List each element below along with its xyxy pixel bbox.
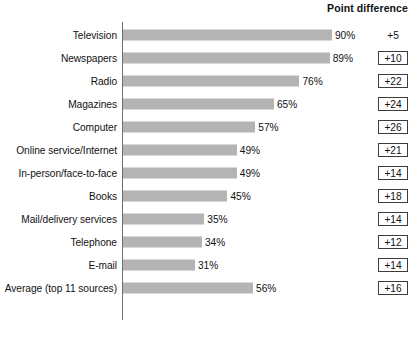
- bar-fill: [123, 98, 274, 109]
- bar: [123, 259, 195, 270]
- bar-value-label: 35%: [207, 213, 227, 224]
- bar: [123, 236, 202, 247]
- point-difference-value: +12: [378, 235, 408, 249]
- bar-row: Online service/Internet49%+21: [0, 138, 417, 161]
- point-difference-value: +22: [378, 74, 408, 88]
- bar-value-label: 49%: [240, 167, 260, 178]
- category-label: Mail/delivery services: [21, 213, 117, 224]
- plot-area: Television90%+5Newspapers89%+10Radio76%+…: [0, 20, 417, 337]
- bar-fill: [123, 75, 299, 86]
- bar: [123, 144, 237, 155]
- bar-value-label: 76%: [302, 75, 322, 86]
- category-label: Newspapers: [61, 52, 117, 63]
- bar: [123, 213, 204, 224]
- bar-value-label: 31%: [198, 259, 218, 270]
- bar-row: Computer57%+26: [0, 115, 417, 138]
- category-label: Television: [73, 29, 117, 40]
- point-difference-value: +14: [378, 212, 408, 226]
- point-difference-value: +10: [378, 51, 408, 65]
- bar-row: Magazines65%+24: [0, 92, 417, 115]
- bar-fill: [123, 282, 253, 293]
- bar-value-label: 65%: [277, 98, 297, 109]
- bar: [123, 52, 330, 63]
- bar: [123, 121, 255, 132]
- bar-fill: [123, 144, 237, 155]
- bar-value-label: 57%: [258, 121, 278, 132]
- point-difference-value: +24: [378, 97, 408, 111]
- category-label: Average (top 11 sources): [5, 282, 117, 293]
- bar-fill: [123, 167, 237, 178]
- bar-row: Average (top 11 sources)56%+16: [0, 276, 417, 299]
- bar-row: Radio76%+22: [0, 69, 417, 92]
- bar-fill: [123, 52, 330, 63]
- point-difference-value: +16: [378, 281, 408, 295]
- category-label: Telephone: [70, 236, 117, 247]
- category-label: Magazines: [68, 98, 117, 109]
- point-difference-value: +21: [378, 143, 408, 157]
- point-difference-value: +14: [378, 166, 408, 180]
- bar-row: Television90%+5: [0, 23, 417, 46]
- bar-row: Newspapers89%+10: [0, 46, 417, 69]
- point-difference-value: +18: [378, 189, 408, 203]
- bar-fill: [123, 236, 202, 247]
- bar-fill: [123, 29, 332, 40]
- bar: [123, 190, 227, 201]
- bar: [123, 167, 237, 178]
- point-difference-value: +26: [378, 120, 408, 134]
- bar-fill: [123, 213, 204, 224]
- bar: [123, 98, 274, 109]
- category-label: Online service/Internet: [16, 144, 117, 155]
- bar-row: Books45%+18: [0, 184, 417, 207]
- bar-fill: [123, 121, 255, 132]
- bar-value-label: 56%: [256, 282, 276, 293]
- point-difference-column-header: Point difference: [327, 2, 408, 14]
- bar-chart-figure: Point difference Television90%+5Newspape…: [0, 0, 417, 337]
- bar-value-label: 49%: [240, 144, 260, 155]
- bar-row: In-person/face-to-face49%+14: [0, 161, 417, 184]
- category-label: Books: [89, 190, 117, 201]
- bar-value-label: 89%: [333, 52, 353, 63]
- bar-fill: [123, 190, 227, 201]
- category-label: Computer: [73, 121, 117, 132]
- bar-fill: [123, 259, 195, 270]
- bar-row: Mail/delivery services35%+14: [0, 207, 417, 230]
- category-label: E-mail: [88, 259, 117, 270]
- bar: [123, 75, 299, 86]
- bar-row: E-mail31%+14: [0, 253, 417, 276]
- category-label: In-person/face-to-face: [18, 167, 117, 178]
- bar-row: Telephone34%+12: [0, 230, 417, 253]
- bar: [123, 29, 332, 40]
- bar-value-label: 34%: [205, 236, 225, 247]
- bar-value-label: 45%: [230, 190, 250, 201]
- bar-value-label: 90%: [335, 29, 355, 40]
- point-difference-value: +14: [378, 258, 408, 272]
- point-difference-value: +5: [378, 28, 408, 42]
- chart-header: Point difference: [0, 0, 417, 20]
- category-label: Radio: [91, 75, 117, 86]
- bar: [123, 282, 253, 293]
